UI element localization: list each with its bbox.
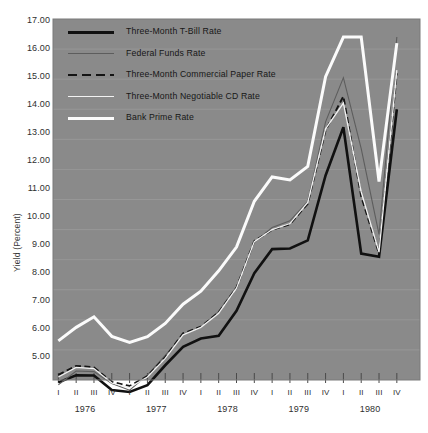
x-year-label: 1976 xyxy=(55,404,115,414)
x-year-label: 1977 xyxy=(126,404,186,414)
x-quarter-label: III xyxy=(85,388,103,397)
x-year-label: 1978 xyxy=(198,404,258,414)
x-quarter-label: I xyxy=(49,388,67,397)
x-quarter-label: IV xyxy=(317,388,335,397)
x-quarter-label: I xyxy=(334,388,352,397)
x-quarter-label: I xyxy=(121,388,139,397)
x-quarter-label: III xyxy=(156,388,174,397)
x-quarter-label: IV xyxy=(174,388,192,397)
x-quarter-label: II xyxy=(67,388,85,397)
x-quarter-label: II xyxy=(210,388,228,397)
x-quarter-label: II xyxy=(352,388,370,397)
legend-label-4: Bank Prime Rate xyxy=(126,112,194,122)
x-quarter-label: IV xyxy=(103,388,121,397)
x-year-label: 1979 xyxy=(269,404,329,414)
x-quarter-label: III xyxy=(370,388,388,397)
legend-swatch-0 xyxy=(68,31,114,34)
legend-swatch-1 xyxy=(68,53,114,54)
x-quarter-label: IV xyxy=(245,388,263,397)
legend-swatch-3 xyxy=(68,96,114,97)
x-quarter-label: I xyxy=(263,388,281,397)
x-quarter-label: I xyxy=(192,388,210,397)
x-quarter-label: II xyxy=(281,388,299,397)
plot-area xyxy=(0,0,428,433)
x-quarter-label: III xyxy=(228,388,246,397)
x-quarter-label: III xyxy=(299,388,317,397)
legend-swatch-2 xyxy=(68,74,114,76)
x-year-label: 1980 xyxy=(340,404,400,414)
legend-label-0: Three-Month T-Bill Rate xyxy=(126,26,222,36)
x-quarter-label: IV xyxy=(388,388,406,397)
chart-figure: Yield (Percent) 17.00 16.00 15.00 14.00 … xyxy=(0,0,428,433)
legend-label-2: Three-Month Commercial Paper Rate xyxy=(126,69,276,79)
legend-swatch-4 xyxy=(68,117,114,120)
legend-label-1: Federal Funds Rate xyxy=(126,48,205,58)
legend-label-3: Three-Month Negotiable CD Rate xyxy=(126,91,260,101)
x-quarter-label: II xyxy=(138,388,156,397)
